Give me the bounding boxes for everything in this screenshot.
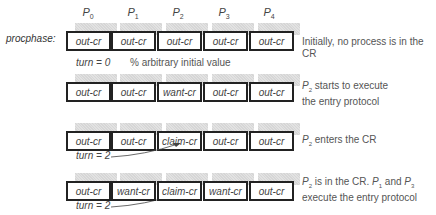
- process-ref-sub: 3: [411, 183, 414, 189]
- turn-annotation-3: turn = 2: [76, 200, 110, 211]
- description-text: execute the entry protocol: [302, 192, 417, 203]
- phase-box: out-cr: [66, 181, 111, 201]
- phase-box: want-cr: [111, 181, 156, 201]
- process-ref: P: [302, 176, 309, 187]
- cell-p0: out-cr: [66, 181, 109, 199]
- phase-box: want-cr: [203, 181, 248, 201]
- row-4-description: P2 is in the CR. P1 and P3 execute the e…: [302, 176, 417, 204]
- description-text: is in the CR.: [312, 176, 372, 187]
- state-row-4: out-cr want-cr claim-cr want-cr out-cr: [66, 181, 306, 201]
- cell-p1: want-cr: [111, 181, 154, 199]
- cell-p3: want-cr: [203, 181, 246, 199]
- cell-p4: out-cr: [249, 181, 292, 199]
- phase-box: out-cr: [249, 181, 294, 201]
- phase-box: claim-cr: [157, 181, 202, 201]
- description-text: and: [382, 176, 404, 187]
- process-ref: P: [404, 176, 411, 187]
- process-ref: P: [372, 176, 379, 187]
- cell-p2: claim-cr: [157, 181, 200, 199]
